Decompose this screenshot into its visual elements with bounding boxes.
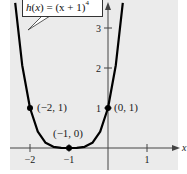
x-axis-label: x [181, 142, 187, 153]
function-exponent: 4 [85, 0, 89, 7]
point-marker [66, 145, 72, 151]
x-tick-label: −1 [64, 154, 75, 165]
function-name: h [26, 1, 32, 13]
y-tick-label: 2 [96, 63, 101, 74]
x-tick-label: 1 [145, 154, 150, 165]
y-tick-label: 1 [96, 103, 101, 114]
function-var: x [35, 1, 40, 13]
function-label-box: h(x) = (x + 1)4 [22, 0, 103, 17]
point-marker [27, 105, 33, 111]
function-plot: −2 −1 1 1 2 3 x (−2, 1) (−1, 0) (0, 1) [0, 0, 187, 174]
point-marker [105, 105, 111, 111]
x-tick-label: −2 [25, 154, 36, 165]
y-tick-label: 3 [96, 23, 101, 34]
function-body: = (x + 1) [44, 1, 86, 13]
point-label: (−1, 0) [53, 127, 83, 140]
point-label: (−2, 1) [37, 101, 67, 114]
point-label: (0, 1) [114, 101, 138, 114]
